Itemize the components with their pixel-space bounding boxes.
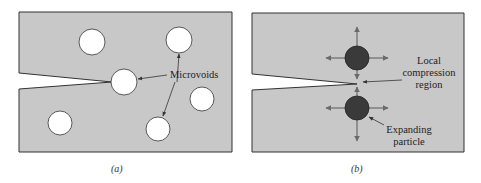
- caption-b: (b): [351, 163, 363, 175]
- microvoid: [111, 69, 137, 95]
- panel-b: Local compression region Expanding parti…: [252, 13, 464, 175]
- microvoid: [79, 29, 105, 55]
- label-line: particle: [393, 136, 425, 147]
- label-line: compression: [402, 67, 456, 78]
- panel-a: Microvoids (a): [19, 12, 232, 175]
- label-line: region: [416, 79, 444, 90]
- expanding-particle: [345, 46, 369, 70]
- microvoid: [48, 111, 72, 135]
- expanding-particle: [345, 96, 369, 120]
- label-line: Expanding: [386, 124, 432, 135]
- microvoid: [146, 117, 170, 141]
- fracture-diagram: Microvoids (a) Local compression region …: [0, 0, 481, 183]
- label-line: Local: [417, 55, 441, 66]
- microvoids-label: Microvoids: [170, 69, 218, 80]
- microvoid: [190, 87, 214, 111]
- microvoid: [166, 27, 192, 53]
- caption-a: (a): [111, 163, 123, 175]
